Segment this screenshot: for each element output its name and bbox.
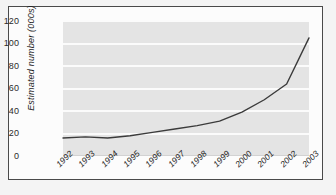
y-axis-tick-label: 120 <box>0 17 19 26</box>
y-axis-tick-label: 0 <box>0 152 19 161</box>
y-axis-tick-label: 100 <box>0 39 19 48</box>
y-axis-title: Estimated number (000s) <box>26 0 36 124</box>
y-axis-tick-label: 60 <box>0 84 19 93</box>
plot-area <box>63 21 309 156</box>
data-series-line <box>63 21 309 156</box>
y-axis-tick-label: 40 <box>0 107 19 116</box>
chart-figure: Estimated number (000s) 020406080100120 … <box>0 0 336 195</box>
chart-card: Estimated number (000s) 020406080100120 … <box>8 6 323 180</box>
y-axis-tick-label: 20 <box>0 129 19 138</box>
y-axis-tick-label: 80 <box>0 62 19 71</box>
